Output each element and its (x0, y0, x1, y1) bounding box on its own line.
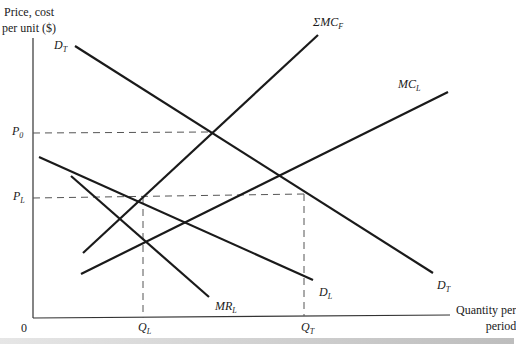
dt-label-base: D (437, 278, 446, 292)
p0-label: P0 (12, 124, 23, 143)
pl-dashed-line (33, 194, 304, 198)
sum-mc-fringe-label: ΣMCF (313, 15, 343, 34)
curve-total-demand (75, 46, 433, 273)
smcf-label-base: ΣMC (313, 15, 338, 29)
y-axis-label-line1: Price, cost (2, 4, 56, 20)
mcl-label-sub: L (416, 84, 420, 93)
curve-sum-mc-fringe (83, 35, 318, 253)
curve-demand-leader (39, 157, 313, 280)
mrl-label-base: MR (215, 299, 232, 313)
dt-label-base: D (54, 38, 63, 52)
mc-leader-label: MCL (398, 77, 420, 96)
x-axis-label-line2: period (456, 318, 516, 334)
mrl-label-sub: L (232, 306, 236, 315)
mr-leader-label: MRL (215, 299, 237, 318)
x-axis-label-line1: Quantity per (456, 302, 516, 318)
dl-label-base: D (319, 285, 328, 299)
total-demand-label-bottom: DT (437, 278, 450, 297)
ql-label-sub: L (147, 327, 151, 336)
mcl-label-base: MC (398, 77, 416, 91)
x-axis-label: Quantity per period (456, 302, 516, 334)
ql-label: QL (138, 320, 151, 339)
pl-label: PL (13, 189, 25, 208)
qt-label: QT (301, 320, 314, 339)
y-axis-label: Price, cost per unit ($) (2, 4, 56, 36)
pl-label-sub: L (20, 196, 24, 205)
x-axis (33, 315, 450, 318)
origin-label: 0 (21, 321, 27, 335)
smcf-label-sub: F (338, 22, 343, 31)
dl-label-sub: L (328, 292, 332, 301)
page-edge-shadow (0, 338, 514, 344)
dt-label-sub: T (446, 285, 450, 294)
dt-label-sub: T (63, 45, 67, 54)
curve-mr-leader (71, 176, 209, 297)
demand-leader-label: DL (319, 285, 332, 304)
ql-label-base: Q (138, 320, 147, 334)
p0-dashed-line (33, 132, 209, 133)
y-axis-label-line2: per unit ($) (2, 20, 56, 36)
qt-label-base: Q (301, 320, 310, 334)
total-demand-label-top: DT (54, 38, 67, 57)
qt-label-sub: T (310, 327, 314, 336)
p0-label-sub: 0 (19, 131, 23, 140)
